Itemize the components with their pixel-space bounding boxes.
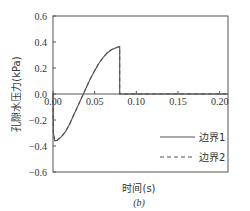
pore-pressure-chart: 0.60.40.20.0−0.2−0.4−0.60.000.050.100.15…: [0, 0, 250, 211]
y-tick-label: 0.4: [35, 37, 48, 48]
legend: 边界1边界2: [160, 132, 225, 163]
x-tick-label: 0.05: [86, 96, 104, 107]
x-tick-label: 0.20: [211, 96, 229, 107]
y-tick-label: −0.4: [29, 141, 47, 152]
legend-label-1: 边界1: [199, 132, 225, 143]
subplot-label: (b): [133, 197, 145, 209]
x-axis-label: 时间(s): [122, 182, 155, 194]
x-tick-label: 0.15: [169, 96, 187, 107]
x-tick-label: 0.10: [128, 96, 146, 107]
y-tick-label: −0.6: [29, 167, 47, 178]
y-tick-label: −0.2: [29, 115, 47, 126]
y-tick-label: 0.6: [35, 11, 48, 22]
y-tick-label: 0.2: [35, 63, 48, 74]
y-axis-label: 孔隙水压力(kPa): [10, 56, 22, 131]
legend-label-2: 边界2: [199, 152, 225, 163]
